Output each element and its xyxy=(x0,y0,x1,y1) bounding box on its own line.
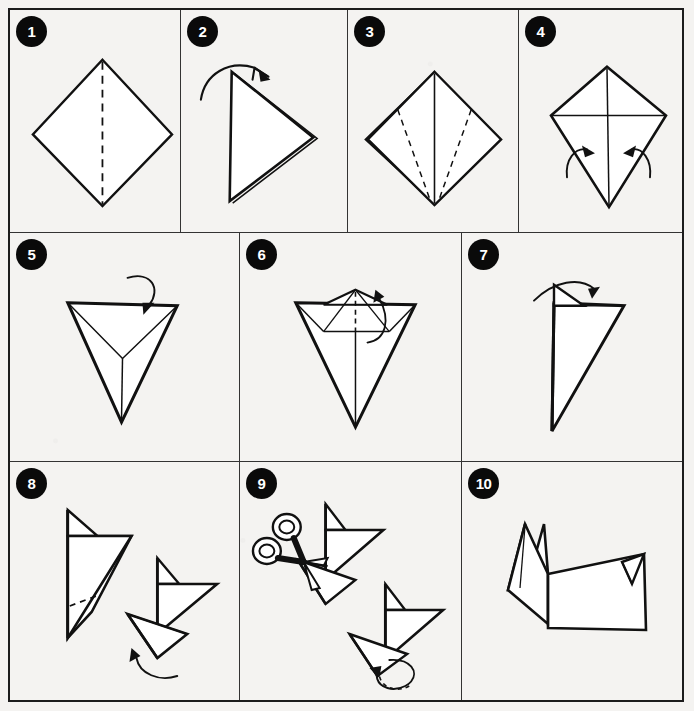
step-figure-7 xyxy=(462,233,682,461)
step-figure-6 xyxy=(240,233,461,461)
step-number-badge-3: 3 xyxy=(354,16,385,47)
diagram-outer-frame: 1 2 xyxy=(8,8,684,702)
paper-background: 1 2 xyxy=(0,0,694,711)
step-panel-4: 4 xyxy=(519,10,682,233)
step-panel-7: 7 xyxy=(462,233,682,462)
step-panel-6: 6 xyxy=(240,233,462,462)
step-figure-10 xyxy=(462,462,682,700)
step-number-badge-9: 9 xyxy=(246,468,277,499)
step-figure-8 xyxy=(10,462,239,700)
step-panel-10: 10 xyxy=(462,462,682,700)
step-panel-2: 2 xyxy=(181,10,348,233)
step-number-badge-8: 8 xyxy=(16,468,47,499)
step-figure-5 xyxy=(10,233,239,461)
step-panel-5: 5 xyxy=(10,233,240,462)
step-number-badge-6: 6 xyxy=(246,239,277,270)
step-panel-3: 3 xyxy=(348,10,519,233)
step-panel-8: 8 xyxy=(10,462,240,700)
step-figure-9 xyxy=(240,462,461,700)
step-number-badge-5: 5 xyxy=(16,239,47,270)
step-panel-9: 9 xyxy=(240,462,462,700)
step-number-badge-7: 7 xyxy=(468,239,499,270)
step-number-badge-4: 4 xyxy=(525,16,556,47)
step-number-badge-1: 1 xyxy=(16,16,47,47)
step-panel-1: 1 xyxy=(10,10,181,233)
step-number-badge-10: 10 xyxy=(468,468,499,499)
step-number-badge-2: 2 xyxy=(187,16,218,47)
